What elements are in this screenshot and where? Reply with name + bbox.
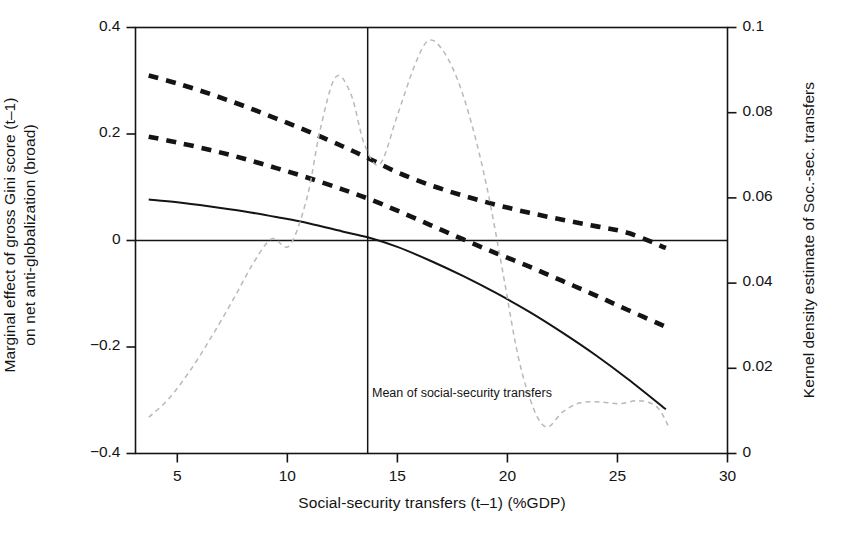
series-dashed: [149, 137, 666, 327]
y-axis-right-tick-label: 0.02: [743, 357, 833, 375]
marginal-effect-chart: Marginal effect of gross Gini score (t–1…: [0, 0, 841, 540]
y-axis-right-tick-label: 0.08: [743, 102, 833, 120]
y-axis-right-tick-label: 0: [743, 443, 833, 461]
y-axis-right-tick-label: 0.06: [743, 187, 833, 205]
y-axis-right-title: Kernel density estimate of Soc.-sec. tra…: [800, 10, 818, 470]
x-axis-title: Social-security transfers (t–1) (%GDP): [135, 494, 729, 512]
x-axis-tick-label: 30: [683, 467, 773, 485]
x-axis-ticks: [177, 454, 727, 463]
plot-canvas: [0, 0, 841, 540]
y-axis-left-tick-label: 0.2: [31, 123, 121, 141]
y-axis-left-title-line-1: Marginal effect of gross Gini score (t–1…: [0, 0, 20, 470]
y-axis-left-tick-label: 0.4: [31, 17, 121, 35]
y-axis-left-tick-label: −0.4: [31, 443, 121, 461]
y-axis-left-tick-label: −0.2: [31, 336, 121, 354]
y-axis-left-tick-label: 0: [31, 230, 121, 248]
mean-line-annotation: Mean of social-security transfers: [372, 386, 552, 400]
x-axis-tick-label: 5: [132, 467, 222, 485]
series-solid: [149, 200, 666, 410]
x-axis-tick-label: 15: [352, 467, 442, 485]
x-axis-tick-label: 20: [462, 467, 552, 485]
y-axis-right-tick-label: 0.1: [743, 17, 833, 35]
x-axis-tick-label: 25: [572, 467, 662, 485]
series-dashed: [149, 75, 666, 248]
x-axis-tick-label: 10: [242, 467, 332, 485]
data-series-layer: [149, 40, 668, 427]
y-axis-left-ticks: [127, 28, 136, 454]
y-axis-right-tick-label: 0.04: [743, 272, 833, 290]
y-axis-right-ticks: [728, 28, 737, 454]
